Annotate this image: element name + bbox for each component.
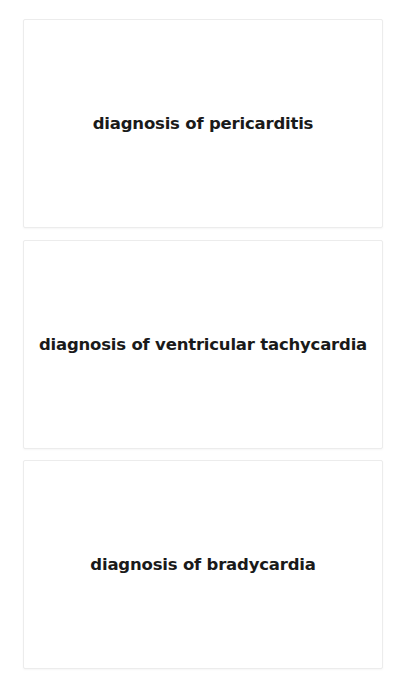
card-pericarditis[interactable]: diagnosis of pericarditis (23, 19, 383, 228)
card-ventricular-tachycardia[interactable]: diagnosis of ventricular tachycardia (23, 240, 383, 449)
card-label: diagnosis of pericarditis (93, 114, 313, 133)
card-label: diagnosis of ventricular tachycardia (39, 335, 367, 354)
card-bradycardia[interactable]: diagnosis of bradycardia (23, 460, 383, 669)
card-label: diagnosis of bradycardia (90, 555, 315, 574)
